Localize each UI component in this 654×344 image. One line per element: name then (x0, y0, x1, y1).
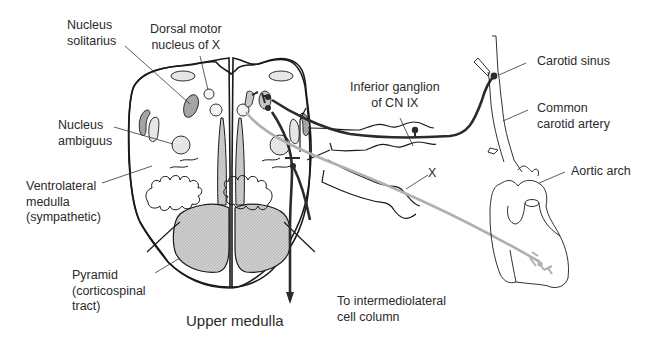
nucleus-top-right (269, 71, 293, 81)
label-vagus-nerve: X (428, 166, 436, 182)
nucleus-ambiguus-left (172, 136, 190, 154)
leader-carotid-sinus (499, 63, 526, 75)
label-nucleus-solitarius: Nucleus solitarius (67, 18, 116, 49)
pyramid-right (235, 204, 291, 272)
label-pyramid: Pyramid (corticospinal tract) (72, 268, 146, 315)
cn-ix-bundle-bottom (330, 142, 436, 151)
label-ventrolateral-medulla: Ventrolateral medulla (sympathetic) (26, 179, 101, 226)
aorta-opening (525, 200, 539, 207)
leader-aortic-arch (539, 172, 565, 183)
hypoglossal-nucleus-left (210, 104, 222, 116)
iml-arrowhead (286, 292, 294, 304)
leader-common-carotid (503, 110, 528, 121)
carotid-branch-low (488, 148, 498, 154)
pyramid-left (173, 204, 229, 272)
label-aortic-arch: Aortic arch (571, 164, 631, 180)
label-inferior-ganglion: Inferior ganglion of CN IX (350, 80, 440, 111)
label-carotid-sinus: Carotid sinus (537, 54, 610, 70)
carotid-branch (474, 58, 490, 76)
midline-structures (218, 118, 245, 205)
label-dorsal-motor-nucleus: Dorsal motor nucleus of X (150, 22, 222, 53)
diagram-title: Upper medulla (186, 313, 284, 329)
carotid-sinus-receptor (491, 73, 498, 80)
label-nucleus-ambiguus: Nucleus ambiguus (58, 118, 112, 149)
dorsal-motor-nucleus-left (204, 89, 214, 99)
leader-vagus (406, 175, 428, 189)
nucleus-top-left (171, 71, 195, 81)
carotid-and-heart (474, 36, 569, 288)
common-carotid-artery (488, 36, 522, 172)
label-intermediolateral: To intermediolateral cell column (337, 294, 446, 325)
label-common-carotid: Common carotid artery (537, 101, 610, 132)
